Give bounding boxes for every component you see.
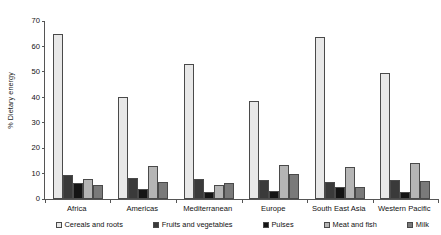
bar[interactable] xyxy=(128,178,138,199)
x-axis-label: Western Pacific xyxy=(372,202,438,216)
bar[interactable] xyxy=(420,181,430,199)
legend-label: Milk xyxy=(416,221,429,228)
bar[interactable] xyxy=(400,192,410,199)
legend-swatch-icon xyxy=(324,222,330,228)
y-axis-tick-label: 10 xyxy=(32,170,40,178)
legend-label: Cereals and roots xyxy=(65,221,123,228)
y-axis-tick-label: 50 xyxy=(32,68,40,76)
legend-item[interactable]: Fruits and vegetables xyxy=(153,221,232,228)
bar[interactable] xyxy=(345,167,355,199)
bar-chart: % Dietary energy 010203040506070 AfricaA… xyxy=(0,0,441,235)
x-axis-tick-mark xyxy=(438,199,439,203)
chart-legend: Cereals and rootsFruits and vegetablesPu… xyxy=(44,219,437,231)
y-axis-title-text: % Dietary energy xyxy=(6,72,15,129)
bar-group xyxy=(307,21,373,199)
legend-item[interactable]: Pulses xyxy=(263,221,294,228)
bar[interactable] xyxy=(184,64,194,199)
y-axis-title: % Dietary energy xyxy=(0,0,20,200)
bar[interactable] xyxy=(380,73,390,199)
legend-swatch-icon xyxy=(263,222,269,228)
x-axis-label: Africa xyxy=(44,202,110,216)
legend-label: Meat and fish xyxy=(333,221,377,228)
legend-label: Pulses xyxy=(271,221,293,228)
bar[interactable] xyxy=(214,185,224,199)
bar-group xyxy=(111,21,177,199)
bar-group xyxy=(45,21,111,199)
bar[interactable] xyxy=(355,187,365,199)
bar[interactable] xyxy=(158,182,168,199)
bar[interactable] xyxy=(224,183,234,199)
x-axis-label: Mediterranean xyxy=(175,202,241,216)
legend-item[interactable]: Milk xyxy=(407,221,429,228)
bar-group xyxy=(242,21,308,199)
bar[interactable] xyxy=(83,179,93,199)
x-axis-label: Europe xyxy=(241,202,307,216)
x-axis-label: Americas xyxy=(110,202,176,216)
legend-swatch-icon xyxy=(56,222,62,228)
bar[interactable] xyxy=(269,191,279,199)
x-axis-label: South East Asia xyxy=(306,202,372,216)
legend-swatch-icon xyxy=(407,222,413,228)
legend-item[interactable]: Meat and fish xyxy=(324,221,377,228)
bar[interactable] xyxy=(335,187,345,199)
bar[interactable] xyxy=(118,97,128,199)
y-axis-tick-label: 20 xyxy=(32,144,40,152)
bar[interactable] xyxy=(410,163,420,199)
bar[interactable] xyxy=(315,37,325,199)
bar[interactable] xyxy=(93,185,103,199)
y-axis-tick-label: 30 xyxy=(32,119,40,127)
legend-item[interactable]: Cereals and roots xyxy=(56,221,123,228)
bar[interactable] xyxy=(53,34,63,199)
bar[interactable] xyxy=(390,180,400,199)
bar-groups xyxy=(45,21,438,199)
bar[interactable] xyxy=(73,183,83,199)
bar[interactable] xyxy=(249,101,259,199)
bar[interactable] xyxy=(289,174,299,199)
y-axis-tick-label: 70 xyxy=(32,17,40,25)
legend-swatch-icon xyxy=(153,222,159,228)
bar[interactable] xyxy=(148,166,158,199)
y-axis-tick-label: 40 xyxy=(32,93,40,101)
x-axis-labels: AfricaAmericasMediterraneanEuropeSouth E… xyxy=(44,202,437,216)
bar-group xyxy=(373,21,439,199)
y-axis-tick-label: 0 xyxy=(36,195,40,203)
plot-area: 010203040506070 xyxy=(44,21,438,200)
legend-label: Fruits and vegetables xyxy=(162,221,233,228)
bar[interactable] xyxy=(325,182,335,199)
bar[interactable] xyxy=(138,189,148,199)
bar[interactable] xyxy=(63,175,73,199)
bar-group xyxy=(176,21,242,199)
bar[interactable] xyxy=(259,180,269,199)
bar[interactable] xyxy=(204,192,214,199)
bar[interactable] xyxy=(279,165,289,199)
bar[interactable] xyxy=(194,179,204,199)
y-axis-tick-label: 60 xyxy=(32,42,40,50)
